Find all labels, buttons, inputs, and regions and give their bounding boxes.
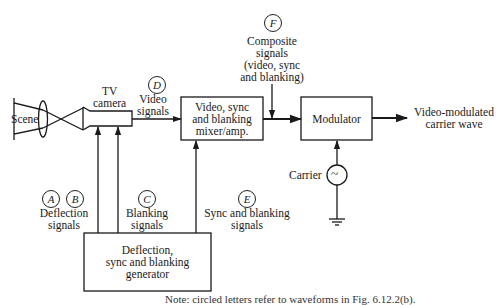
- tv-camera-icon: [83, 107, 132, 130]
- composite-line3: (video, sync: [232, 59, 312, 71]
- ground-icon: [329, 219, 345, 225]
- deflection-signals-label: Deflection signals: [38, 207, 90, 231]
- figure-caption: Note: circled letters refer to waveforms…: [165, 293, 415, 305]
- tv-camera-label: TV camera: [93, 85, 126, 109]
- video-signals-label: Video signals: [137, 93, 169, 117]
- sync-blanking-line2: signals: [200, 219, 294, 231]
- blanking-line1: Blanking: [124, 207, 170, 219]
- sync-blanking-signals-label: Sync and blanking signals: [200, 207, 294, 231]
- generator-label: Deflection, sync and blanking generator: [85, 244, 210, 280]
- composite-line4: and blanking): [232, 71, 312, 83]
- marker-f: F: [264, 14, 282, 32]
- modulator-label: Modulator: [301, 113, 372, 125]
- video-signals-line1: Video: [137, 93, 169, 105]
- mixer-label-line2: and blanking: [183, 113, 261, 125]
- composite-signals-label: Composite signals (video, sync and blank…: [232, 35, 312, 83]
- generator-line3: generator: [85, 268, 210, 280]
- marker-d: D: [148, 76, 166, 94]
- lens-icon: [39, 101, 48, 137]
- carrier-label: Carrier: [289, 169, 322, 181]
- output-line1: Video-modulated: [410, 106, 498, 118]
- video-signals-line2: signals: [137, 105, 169, 117]
- carrier-tilde: ~: [331, 168, 338, 180]
- blanking-line2: signals: [124, 219, 170, 231]
- blanking-signals-label: Blanking signals: [124, 207, 170, 231]
- tv-camera-label-line1: TV: [93, 85, 126, 97]
- marker-e: E: [238, 190, 256, 208]
- generator-line1: Deflection,: [85, 244, 210, 256]
- scene-label: Scene: [11, 113, 38, 125]
- mixer-label-line1: Video, sync: [183, 101, 261, 113]
- mixer-label-line3: mixer/amp.: [183, 125, 261, 137]
- sync-blanking-line1: Sync and blanking: [200, 207, 294, 219]
- marker-b: B: [66, 190, 84, 208]
- deflection-line1: Deflection: [38, 207, 90, 219]
- optical-rays: [43, 108, 83, 130]
- output-line2: carrier wave: [410, 118, 498, 130]
- deflection-line2: signals: [38, 219, 90, 231]
- mixer-label: Video, sync and blanking mixer/amp.: [183, 101, 261, 137]
- marker-c: C: [138, 190, 156, 208]
- marker-a: A: [42, 190, 60, 208]
- output-label: Video-modulated carrier wave: [410, 106, 498, 130]
- composite-line2: signals: [232, 47, 312, 59]
- composite-line1: Composite: [232, 35, 312, 47]
- tv-camera-label-line2: camera: [93, 97, 126, 109]
- generator-line2: sync and blanking: [85, 256, 210, 268]
